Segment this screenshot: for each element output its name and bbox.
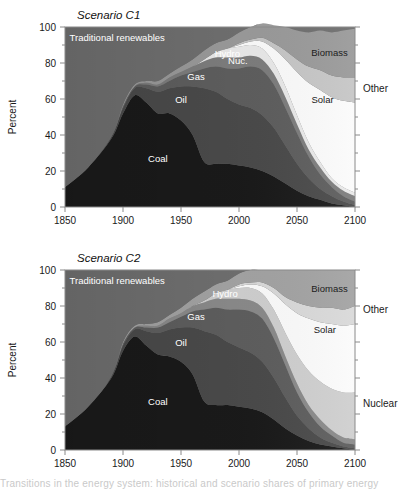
chart-panel-scenario-c2: Scenario C2020406080100Percent1850190019… — [0, 243, 415, 483]
y-axis-title: Percent — [7, 343, 18, 378]
y-axis-title: Percent — [7, 100, 18, 135]
band-label-solar: Solar — [314, 324, 336, 335]
y-tick-label: 60 — [45, 94, 57, 105]
band-label-traditional-renewables: Traditional renewables — [70, 275, 165, 286]
chart-svg-c2: Scenario C2020406080100Percent1850190019… — [0, 243, 415, 483]
outside-labels: OtherNuclear — [363, 304, 398, 409]
y-tick-label: 80 — [45, 58, 57, 69]
band-label-solar: Solar — [311, 94, 333, 105]
outside-label-other: Other — [363, 83, 389, 94]
scenario-title: Scenario C1 — [77, 9, 140, 21]
x-tick-label: 1850 — [54, 215, 77, 226]
x-tick-label: 2000 — [228, 215, 251, 226]
band-label-biomass: Biomass — [311, 283, 348, 294]
band-label-gas: Gas — [187, 311, 205, 322]
y-tick-label: 100 — [39, 265, 56, 276]
y-tick-label: 100 — [39, 22, 56, 33]
outside-label-other: Other — [363, 304, 389, 315]
band-label-coal: Coal — [148, 396, 168, 407]
chart-panel-scenario-c1: Scenario C1020406080100Percent1850190019… — [0, 0, 415, 240]
x-tick-label: 2100 — [344, 458, 367, 469]
band-label-biomass: Biomass — [311, 47, 348, 58]
x-axis: 185019001950200020502100 — [54, 207, 367, 226]
band-label-coal: Coal — [148, 153, 168, 164]
y-tick-label: 80 — [45, 301, 57, 312]
x-tick-label: 2000 — [228, 458, 251, 469]
y-tick-label: 0 — [50, 202, 56, 213]
y-tick-label: 60 — [45, 337, 57, 348]
x-axis: 185019001950200020502100 — [54, 450, 367, 469]
chart-svg-c1: Scenario C1020406080100Percent1850190019… — [0, 0, 415, 240]
band-label-nuclear: Nuc. — [228, 55, 248, 66]
x-tick-label: 1900 — [112, 215, 135, 226]
y-tick-label: 0 — [50, 445, 56, 456]
x-tick-label: 2050 — [286, 458, 309, 469]
y-tick-label: 20 — [45, 409, 57, 420]
outside-label-nuclear: Nuclear — [363, 398, 398, 409]
y-tick-label: 20 — [45, 166, 57, 177]
figure-root: Scenario C1020406080100Percent1850190019… — [0, 0, 415, 490]
band-label-oil: Oil — [175, 337, 187, 348]
x-tick-label: 2100 — [344, 215, 367, 226]
scenario-title: Scenario C2 — [77, 252, 141, 264]
band-label-oil: Oil — [175, 94, 187, 105]
band-label-gas: Gas — [187, 71, 205, 82]
y-tick-label: 40 — [45, 373, 57, 384]
x-tick-label: 1850 — [54, 458, 77, 469]
x-tick-label: 1950 — [170, 215, 193, 226]
x-tick-label: 1950 — [170, 458, 193, 469]
y-tick-label: 40 — [45, 130, 57, 141]
figure-caption: Transitions in the energy system: histor… — [0, 478, 415, 489]
band-label-traditional-renewables: Traditional renewables — [70, 32, 165, 43]
scan-shading-overlay — [65, 270, 355, 450]
band-label-hydro: Hydro — [212, 288, 237, 299]
x-tick-label: 2050 — [286, 215, 309, 226]
outside-labels: Other — [363, 83, 389, 94]
x-tick-label: 1900 — [112, 458, 135, 469]
